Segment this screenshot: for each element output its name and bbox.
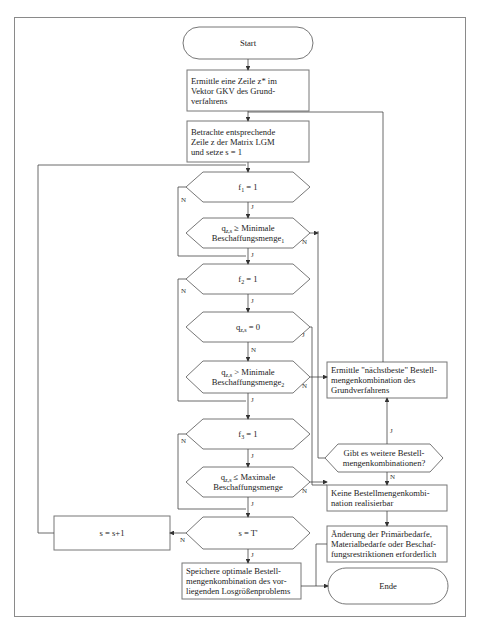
label-yes-more: J xyxy=(390,427,393,435)
decision-f1: f1 = 1 xyxy=(186,172,310,202)
step-increment-s: s = s+1 xyxy=(54,516,170,550)
step-find-row-l3: verfahrens xyxy=(191,96,227,106)
label-no-st: N xyxy=(180,536,185,544)
more-l1: Gibt es weitere Bestell- xyxy=(344,448,425,458)
label-yes-f2: J xyxy=(251,297,254,305)
step-change-required: Änderung der Primärbedarfe, Materialbeda… xyxy=(327,526,451,562)
label-no-more: N xyxy=(390,473,395,481)
decision-f3: f3 = 1 xyxy=(186,419,310,449)
decision-q-max: qz,s ≤ Maximale Beschaffungsmenge xyxy=(186,467,310,497)
label-no-f3: N xyxy=(181,437,186,445)
q-rest: ≥ Minimale xyxy=(232,223,274,233)
bm-label: Beschaffungsmenge xyxy=(212,233,282,243)
label-yes-st: J xyxy=(251,551,254,559)
label-yes-qmax: J xyxy=(251,500,254,508)
f3-rest: = 1 xyxy=(244,429,257,439)
save-l2: mengenkombination des vor- xyxy=(186,576,287,586)
next-best-l1: Ermittle "nächstbeste" Bestell- xyxy=(331,365,437,375)
label-yes-f1: J xyxy=(251,203,254,211)
bmmax-label: Beschaffungsmenge xyxy=(213,482,283,492)
next-best-l3: Grundverfahrens xyxy=(331,385,389,395)
bm2-label: Beschaffungsmenge xyxy=(212,377,282,387)
label-no-f1: N xyxy=(181,196,186,204)
decision-q-min2: qz,s > Minimale Beschaffungsmenge2 xyxy=(186,361,310,393)
start-label: Start xyxy=(240,38,256,48)
step-none-feasible: Keine Bestellmengenkombi- nation realisi… xyxy=(327,485,451,511)
q2-rest: > Minimale xyxy=(232,367,275,377)
save-l1: Speichere optimale Bestell- xyxy=(186,566,281,576)
f2-rest: = 1 xyxy=(244,274,257,284)
bm2-sub: 2 xyxy=(281,382,284,388)
decision-f2: f2 = 1 xyxy=(186,264,310,294)
more-l2: mengenkombinationen? xyxy=(343,458,426,468)
label-no-qmin1: N xyxy=(302,238,307,246)
step-next-best: Ermittle "nächstbeste" Bestell- mengenko… xyxy=(327,362,451,398)
qmax-rest: ≤ Maximale xyxy=(231,472,275,482)
label-no-f2: N xyxy=(181,287,186,295)
start-terminal: Start xyxy=(183,27,313,59)
label-no-qmax: N xyxy=(302,487,307,495)
label-no-qmin2: N xyxy=(302,382,307,390)
label-yes-q0: J xyxy=(302,331,305,339)
bm-sub: 1 xyxy=(281,238,284,244)
change-l3: fungsrestriktionen erforderlich xyxy=(331,549,436,559)
end-label: Ende xyxy=(379,581,397,591)
step-consider-row: Betrachte entsprechende Zeile z der Matr… xyxy=(187,121,313,162)
step-find-row: Ermittle eine Zeile z* im Vektor GKV des… xyxy=(187,70,313,111)
decision-q-min1: qz,s ≥ Minimale Beschaffungsmenge1 xyxy=(186,218,310,248)
label-yes-qmin2: J xyxy=(251,396,254,404)
decision-s-equals-t: s = T' xyxy=(186,517,310,549)
label-yes-f3: J xyxy=(251,452,254,460)
step-consider-row-l1: Betrachte entsprechende xyxy=(191,127,275,137)
end-terminal: Ende xyxy=(328,568,448,604)
f1-rest: = 1 xyxy=(244,182,257,192)
change-l1: Änderung der Primärbedarfe, xyxy=(331,529,432,539)
step-save: Speichere optimale Bestell- mengenkombin… xyxy=(182,563,305,599)
step-find-row-l1: Ermittle eine Zeile z* im xyxy=(191,76,277,86)
step-find-row-l2: Vektor GKV des Grund- xyxy=(191,86,275,96)
none-l2: nation realisierbar xyxy=(331,498,393,508)
step-consider-row-l3: und setze s = 1 xyxy=(191,147,242,157)
none-l1: Keine Bestellmengenkombi- xyxy=(331,488,430,498)
next-best-l2: mengenkombination des xyxy=(331,375,415,385)
step-consider-row-l2: Zeile z der Matrix LGM xyxy=(191,137,275,147)
increment-label: s = s+1 xyxy=(100,528,125,538)
label-yes-qmin1: J xyxy=(251,251,254,259)
decision-q-zero: qz,s = 0 xyxy=(186,312,310,342)
q0-rest: = 0 xyxy=(247,322,260,332)
s-t-label: s = T' xyxy=(238,528,257,538)
decision-more-combinations: Gibt es weitere Bestell- mengenkombinati… xyxy=(325,444,443,472)
change-l2: Materialbedarfe oder Beschaf- xyxy=(331,539,436,549)
save-l3: liegenden Losgrößenproblems xyxy=(186,586,290,596)
label-no-q0: N xyxy=(251,346,256,354)
